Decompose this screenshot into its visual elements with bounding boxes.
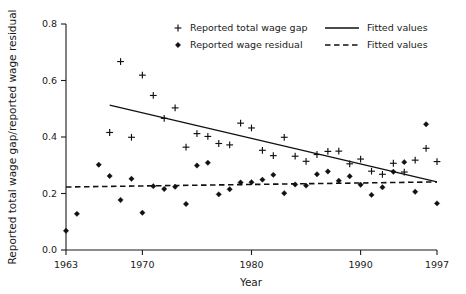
data-point-wage-gap xyxy=(128,134,135,141)
data-point-wage-residual xyxy=(347,174,352,179)
data-point-wage-residual xyxy=(412,189,417,194)
data-point-wage-gap xyxy=(150,92,157,99)
data-point-wage-residual xyxy=(402,159,407,164)
y-tick-label: 0.8 xyxy=(42,18,57,29)
data-point-wage-gap xyxy=(194,130,201,137)
data-points xyxy=(63,58,440,233)
data-point-wage-residual xyxy=(216,192,221,197)
data-point-wage-residual xyxy=(271,172,276,177)
legend-entry: Fitted values xyxy=(325,39,428,50)
data-point-wage-residual xyxy=(162,186,167,191)
data-point-wage-residual xyxy=(380,185,385,190)
data-point-wage-gap xyxy=(357,156,364,163)
data-point-wage-residual xyxy=(260,177,265,182)
data-point-wage-residual xyxy=(140,210,145,215)
data-point-wage-gap xyxy=(390,160,397,167)
data-point-wage-residual xyxy=(292,182,297,187)
data-point-wage-gap xyxy=(292,153,299,160)
fitted-line-solid xyxy=(110,105,437,182)
data-point-wage-gap xyxy=(270,152,277,159)
data-point-wage-gap xyxy=(204,133,211,140)
legend-entry: Reported wage residual xyxy=(175,39,302,50)
data-point-wage-gap xyxy=(368,168,375,175)
y-tick-label: 0.4 xyxy=(42,131,57,142)
data-point-wage-residual xyxy=(325,169,330,174)
legend-label: Fitted values xyxy=(367,39,428,50)
legend-label: Reported wage residual xyxy=(190,39,303,50)
axes xyxy=(66,24,437,250)
data-point-wage-residual xyxy=(434,201,439,206)
data-point-wage-gap xyxy=(314,151,321,158)
scatter-plot: 0.00.20.40.60.8 19631970198019901997 Yea… xyxy=(0,0,466,294)
data-point-wage-residual xyxy=(129,176,134,181)
data-point-wage-residual xyxy=(227,187,232,192)
data-point-wage-gap xyxy=(434,158,441,165)
data-point-wage-residual xyxy=(107,173,112,178)
data-point-wage-gap xyxy=(237,120,244,127)
data-point-wage-residual xyxy=(63,228,68,233)
legend: Reported total wage gapReported wage res… xyxy=(175,22,428,50)
data-point-wage-residual xyxy=(423,122,428,127)
legend-diamond-icon xyxy=(175,42,180,47)
data-point-wage-residual xyxy=(282,191,287,196)
data-point-wage-gap xyxy=(281,134,288,141)
data-point-wage-gap xyxy=(248,125,255,132)
data-point-wage-residual xyxy=(369,192,374,197)
x-tick-label: 1990 xyxy=(349,259,373,270)
data-point-wage-gap xyxy=(172,105,179,112)
legend-entry: Reported total wage gap xyxy=(175,22,308,33)
data-point-wage-gap xyxy=(303,158,310,165)
x-axis-title: Year xyxy=(239,276,263,288)
x-tick-label: 1963 xyxy=(54,259,78,270)
data-point-wage-gap xyxy=(259,147,266,154)
data-point-wage-gap xyxy=(161,115,168,122)
data-point-wage-residual xyxy=(118,197,123,202)
data-point-wage-residual xyxy=(194,163,199,168)
data-point-wage-gap xyxy=(139,72,146,79)
data-point-wage-gap xyxy=(423,145,430,152)
data-point-wage-residual xyxy=(183,201,188,206)
data-point-wage-gap xyxy=(324,148,331,155)
data-point-wage-gap xyxy=(215,140,222,147)
data-point-wage-gap xyxy=(183,144,190,151)
data-point-wage-residual xyxy=(74,211,79,216)
data-point-wage-gap xyxy=(412,157,419,164)
data-point-wage-residual xyxy=(151,183,156,188)
y-tick-label: 0.0 xyxy=(42,244,57,255)
data-point-wage-gap xyxy=(379,171,386,178)
legend-label: Reported total wage gap xyxy=(190,22,308,33)
data-point-wage-gap xyxy=(226,142,233,149)
data-point-wage-gap xyxy=(335,148,342,155)
data-point-wage-gap xyxy=(117,58,124,65)
data-point-wage-residual xyxy=(205,160,210,165)
data-point-wage-residual xyxy=(314,172,319,177)
data-point-wage-gap xyxy=(106,129,113,136)
legend-plus-icon xyxy=(175,25,182,32)
legend-entry: Fitted values xyxy=(325,22,428,33)
y-axis-title: Reported total wage gap/reported wage re… xyxy=(6,9,18,264)
legend-label: Fitted values xyxy=(367,22,428,33)
data-point-wage-residual xyxy=(96,162,101,167)
x-tick-label: 1970 xyxy=(130,259,154,270)
y-axis-ticks: 0.00.20.40.60.8 xyxy=(42,18,66,255)
chart-figure: 0.00.20.40.60.8 19631970198019901997 Yea… xyxy=(0,0,466,294)
y-tick-label: 0.2 xyxy=(42,188,57,199)
data-point-wage-residual xyxy=(391,169,396,174)
x-tick-label: 1980 xyxy=(239,259,263,270)
y-tick-label: 0.6 xyxy=(42,75,57,86)
x-tick-label: 1997 xyxy=(425,259,449,270)
x-axis-ticks: 19631970198019901997 xyxy=(54,250,449,270)
